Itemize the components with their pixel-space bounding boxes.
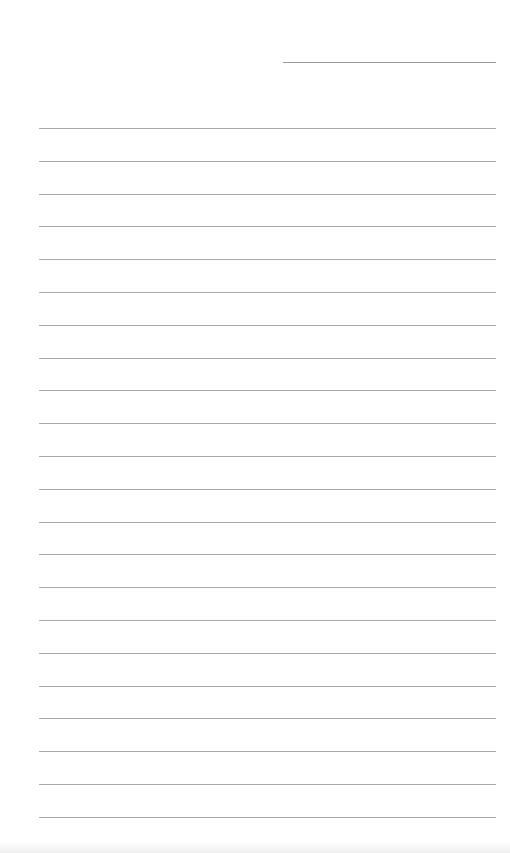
ruled-line (39, 686, 496, 687)
ruled-line (39, 718, 496, 719)
ruled-line (39, 423, 496, 424)
ruled-line (39, 259, 496, 260)
paper-edge-shadow (0, 841, 510, 853)
ruled-line (39, 390, 496, 391)
ruled-line (39, 456, 496, 457)
ruled-line (39, 587, 496, 588)
ruled-line (39, 817, 496, 818)
ruled-line (39, 128, 496, 129)
ruled-line (39, 522, 496, 523)
ruled-line (39, 653, 496, 654)
lined-paper-page (0, 0, 510, 853)
ruled-line (39, 489, 496, 490)
ruled-line (39, 554, 496, 555)
date-line (283, 62, 496, 63)
ruled-line (39, 325, 496, 326)
ruled-line (39, 161, 496, 162)
ruled-line (39, 358, 496, 359)
ruled-line (39, 292, 496, 293)
ruled-line (39, 620, 496, 621)
ruled-line (39, 194, 496, 195)
ruled-line (39, 751, 496, 752)
ruled-line (39, 226, 496, 227)
ruled-line (39, 784, 496, 785)
